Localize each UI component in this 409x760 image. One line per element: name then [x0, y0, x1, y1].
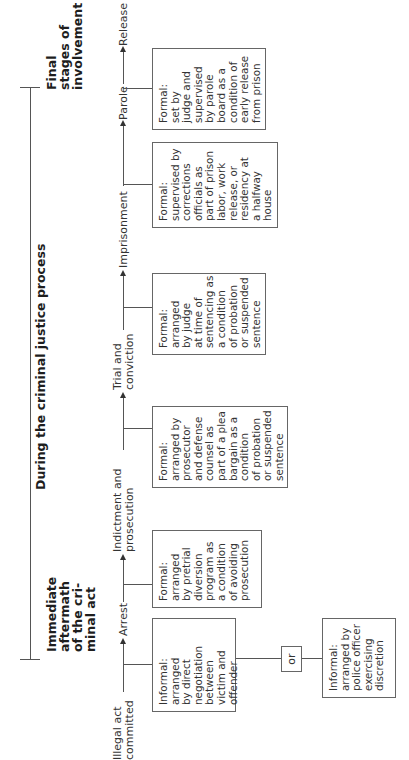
step-line: Imprisonment [118, 191, 130, 268]
or-connector-bottom [302, 658, 322, 659]
box-line: Formal: [158, 278, 170, 348]
box-line: Formal: [158, 53, 170, 123]
connector [123, 307, 152, 308]
box-parole-board: Formal: set by judge and supervised by p… [152, 48, 266, 130]
box-line: Informal: [328, 623, 340, 691]
flow-line-2 [123, 558, 124, 602]
flow-line-3 [123, 396, 124, 450]
box-line: Formal: [158, 147, 170, 221]
stage-line: involvement [71, 3, 84, 90]
connector [123, 184, 152, 185]
box-line: part of a plea [216, 411, 228, 481]
box-line: victim and [216, 623, 228, 705]
connector [123, 584, 152, 585]
box-line: Formal: [158, 411, 170, 481]
box-victim-offender: Informal: arranged by direct negotiation… [152, 618, 236, 712]
restitution-diagram: Immediate aftermath of the cri- minal ac… [0, 0, 409, 760]
stage-line: minal act [84, 577, 97, 652]
step-indictment: Indictment and prosecution [112, 468, 136, 552]
box-line: residency at [239, 147, 251, 221]
box-line: or suspended [239, 278, 251, 348]
box-line: offender [228, 623, 240, 705]
step-imprisonment: Imprisonment [118, 191, 130, 268]
stage-bracket-line [30, 87, 31, 660]
box-line: house [262, 147, 274, 221]
box-pretrial-diversion: Formal: arranged by pretrial diversion p… [152, 530, 262, 608]
box-line: labor, work [216, 147, 228, 221]
arrow-icon [120, 120, 126, 126]
step-arrest: Arrest [118, 603, 130, 636]
or-connector-top [236, 658, 281, 659]
or-label: or [285, 653, 298, 664]
box-judge-sentencing: Formal: arranged by judge at time of sen… [152, 273, 266, 355]
box-line: board as a [216, 53, 228, 123]
box-corrections: Formal: supervised by corrections offici… [152, 142, 278, 228]
step-release: Release [118, 3, 130, 46]
step-line: prosecution [124, 468, 136, 552]
box-line: a condition [216, 535, 228, 601]
connector [123, 664, 152, 665]
connector [123, 88, 152, 89]
arrow-icon [120, 46, 126, 52]
stage-label-final: Final stages of involvement [45, 3, 84, 90]
flow-line-5 [123, 124, 124, 186]
stage-line: During the criminal justice process [34, 244, 47, 490]
box-line: early release [239, 53, 251, 123]
box-line: prosecution [239, 535, 251, 601]
step-parole: Parole [118, 86, 130, 120]
arrow-icon [120, 392, 126, 398]
box-line: condition [239, 411, 251, 481]
box-prosecutor-plea: Formal: arranged by prosecutor and defen… [152, 406, 288, 488]
box-line: sentence [274, 411, 286, 481]
step-line: Arrest [118, 603, 130, 636]
box-line: discretion [374, 623, 386, 691]
flow-line-6 [123, 50, 124, 84]
box-police-discretion: Informal: arranged by police officer exe… [322, 618, 396, 698]
step-trial: Trial and conviction [112, 334, 136, 390]
step-line: Release [118, 3, 130, 46]
box-line: sentence [251, 278, 263, 348]
box-line: Formal: [158, 535, 170, 601]
bracket-tick-start [20, 659, 40, 660]
arrow-icon [120, 270, 126, 276]
step-illegal-act: Illegal act committed [112, 700, 136, 760]
stage-label-immediate: Immediate aftermath of the cri- minal ac… [45, 577, 97, 652]
step-line: Parole [118, 86, 130, 120]
arrow-icon [120, 638, 126, 644]
box-line: Informal: [158, 623, 170, 705]
box-line: a condition [216, 278, 228, 348]
step-line: committed [124, 700, 136, 760]
box-line: from prison [251, 53, 263, 123]
or-box: or [281, 646, 302, 672]
flow-line-1 [123, 642, 124, 692]
bracket-tick-end [20, 87, 40, 88]
connector [123, 428, 152, 429]
flow-line-4 [123, 274, 124, 330]
stage-label-during: During the criminal justice process [34, 244, 47, 490]
arrow-icon [120, 554, 126, 560]
step-line: conviction [124, 334, 136, 390]
